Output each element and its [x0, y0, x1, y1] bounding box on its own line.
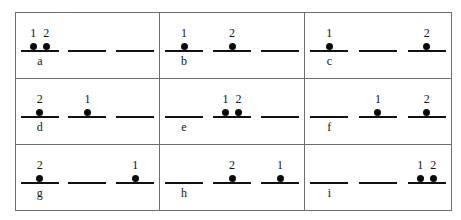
electron-index-label: 2 — [227, 27, 237, 39]
cell-inner: 2g1 — [16, 145, 159, 210]
orbital-line-icon — [261, 182, 299, 184]
cell-inner: h21 — [160, 145, 304, 210]
electron-index-label: 2 — [41, 27, 51, 39]
cell-letter-label: g — [21, 186, 59, 200]
cell-letter-label: f — [310, 120, 348, 134]
cell-letter-label: a — [21, 54, 59, 68]
cell-inner: e12 — [160, 79, 304, 144]
orbital-line-icon — [261, 50, 299, 52]
orbital-2: 1 — [359, 95, 397, 137]
electron-index-label: 2 — [35, 159, 45, 171]
electron-dot-icon — [417, 175, 424, 182]
electron-index-label: 1 — [82, 93, 92, 105]
orbital-1: 1c — [310, 29, 348, 71]
cell-letter-label: i — [310, 186, 348, 200]
orbital-line-icon — [68, 182, 106, 184]
orbital-line-icon — [408, 182, 446, 184]
orbital-2 — [359, 29, 397, 71]
electron-dot-icon — [222, 109, 229, 116]
orbital-line-icon — [21, 116, 59, 118]
electron-dot-icon — [132, 175, 139, 182]
orbital-3 — [261, 95, 299, 137]
electron-index-label: 2 — [422, 27, 432, 39]
electron-dot-icon — [423, 43, 430, 50]
diagram-cell-h: h21 — [160, 145, 305, 211]
electron-index-label: 1 — [415, 159, 425, 171]
diagram-cell-f: f12 — [305, 79, 452, 145]
orbital-row: i12 — [305, 145, 451, 210]
electron-index-label: 1 — [28, 27, 38, 39]
electron-index-label: 1 — [324, 27, 334, 39]
electron-dot-icon — [181, 43, 188, 50]
orbital-1: f — [310, 95, 348, 137]
electron-index-label: 2 — [234, 93, 244, 105]
orbital-row: 1c2 — [305, 13, 451, 78]
orbital-1: 2g — [21, 161, 59, 203]
orbital-line-icon — [310, 50, 348, 52]
cell-inner: 1b2 — [160, 13, 304, 78]
orbital-row: e12 — [160, 79, 304, 144]
orbital-3: 2 — [408, 95, 446, 137]
orbital-line-icon — [68, 116, 106, 118]
orbital-1: 12a — [21, 29, 59, 71]
electron-dot-icon — [36, 109, 43, 116]
grid-row: 2g1 h21 i12 — [16, 145, 452, 211]
cell-letter-label: b — [165, 54, 203, 68]
electron-dot-icon — [84, 109, 91, 116]
orbital-line-icon — [213, 182, 251, 184]
electron-index-label: 2 — [428, 159, 438, 171]
diagram-cell-a: 12a — [16, 13, 160, 79]
orbital-1: i — [310, 161, 348, 203]
electron-index-label: 2 — [422, 93, 432, 105]
orbital-3 — [116, 29, 154, 71]
electron-index-label: 1 — [373, 93, 383, 105]
diagram-cell-d: 2d1 — [16, 79, 160, 145]
orbital-line-icon — [116, 182, 154, 184]
orbital-3: 1 — [116, 161, 154, 203]
orbital-line-icon — [165, 182, 203, 184]
orbital-row: 2d1 — [16, 79, 159, 144]
electron-index-label: 1 — [179, 27, 189, 39]
orbital-line-icon — [359, 182, 397, 184]
diagram-cell-g: 2g1 — [16, 145, 160, 211]
electron-dot-icon — [36, 175, 43, 182]
orbital-1: h — [165, 161, 203, 203]
electron-dot-icon — [235, 109, 242, 116]
electron-index-label: 1 — [221, 93, 231, 105]
cell-letter-label: d — [21, 120, 59, 134]
orbital-diagram-figure: 12a 1b2 1c2 2d1 e12 f12 2g1 h21 i12 — [0, 0, 461, 220]
orbital-line-icon — [261, 116, 299, 118]
diagram-cell-b: 1b2 — [160, 13, 305, 79]
electron-index-label: 1 — [275, 159, 285, 171]
orbital-row: 12a — [16, 13, 159, 78]
orbital-2: 1 — [68, 95, 106, 137]
cell-inner: 2d1 — [16, 79, 159, 144]
orbital-2 — [68, 29, 106, 71]
electron-dot-icon — [430, 175, 437, 182]
orbital-1: e — [165, 95, 203, 137]
electron-dot-icon — [229, 43, 236, 50]
electron-dot-icon — [326, 43, 333, 50]
electron-index-label: 2 — [35, 93, 45, 105]
orbital-line-icon — [21, 182, 59, 184]
orbital-line-icon — [310, 182, 348, 184]
orbital-2 — [359, 161, 397, 203]
electron-dot-icon — [30, 43, 37, 50]
orbital-3: 2 — [408, 29, 446, 71]
diagram-cell-i: i12 — [305, 145, 452, 211]
orbital-row: 2g1 — [16, 145, 159, 210]
orbital-row: 1b2 — [160, 13, 304, 78]
electron-dot-icon — [229, 175, 236, 182]
orbital-2: 12 — [213, 95, 251, 137]
orbital-row: h21 — [160, 145, 304, 210]
orbital-row: f12 — [305, 79, 451, 144]
cell-inner: 12a — [16, 13, 159, 78]
electron-index-label: 1 — [130, 159, 140, 171]
electron-dot-icon — [43, 43, 50, 50]
orbital-line-icon — [21, 50, 59, 52]
orbital-3 — [116, 95, 154, 137]
orbital-1: 2d — [21, 95, 59, 137]
orbital-line-icon — [408, 116, 446, 118]
grid-body: 12a 1b2 1c2 2d1 e12 f12 2g1 h21 i12 — [16, 13, 452, 211]
electron-dot-icon — [277, 175, 284, 182]
